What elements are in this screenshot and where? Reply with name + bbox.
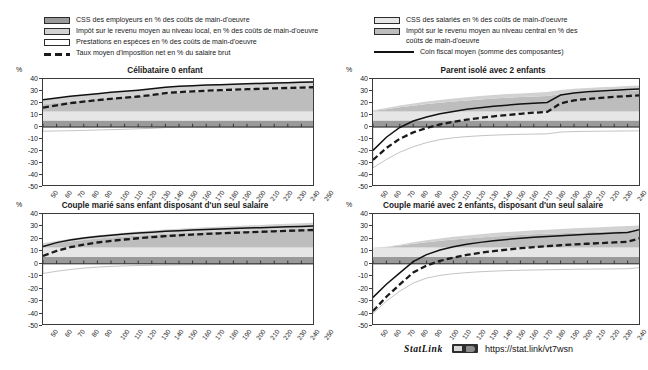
plot-area [372,78,640,186]
area-series [43,111,314,120]
y-tick-label: -30 [358,159,368,166]
area-series-negative [43,127,314,131]
series-layer [373,79,640,186]
x-tick-label: 90 [104,328,114,338]
y-axis-labels: 403020100-10-20-30-40-50 [18,78,38,186]
chart-panel-celibataire-0-enfant: Célibataire 0 enfant%403020100-10-20-30-… [0,66,314,216]
x-tick-label: 200 [582,328,594,341]
y-tick-label: 0 [34,259,38,266]
legend-swatch-icon [374,28,400,35]
y-tick-label: 40 [30,75,38,82]
y-tick-mark [39,275,42,276]
y-tick-mark [39,238,42,239]
x-tick-label: 50 [49,189,59,199]
x-tick-label: 220 [282,328,294,341]
y-tick-mark [39,174,42,175]
legend-item: Taux moyen d'imposition net en % du sala… [44,49,344,59]
statlink-url[interactable]: https://stat.link/vt7wsn [485,344,573,354]
x-tick-label: 50 [379,328,389,338]
y-tick-label: 10 [30,111,38,118]
legend-label: Impôt sur le revenu moyen au niveau cent… [406,27,592,46]
legend-item: Coin fiscal moyen (somme des composantes… [374,48,646,58]
x-tick-label: 110 [132,328,144,341]
y-tick-mark [39,213,42,214]
legend-item: CSS des salariés en % des coûts de main-… [374,16,646,26]
y-tick-mark [369,313,372,314]
x-tick-label: 180 [555,328,567,341]
y-tick-mark [369,90,372,91]
x-tick-label: 60 [63,189,73,199]
y-axis-labels: 403020100-10-20-30-40-50 [18,213,38,325]
x-tick-label: 180 [227,328,239,341]
y-tick-label: -40 [28,171,38,178]
y-tick-label: -20 [28,147,38,154]
x-tick-label: 120 [146,328,158,341]
y-axis-labels: 403020100-10-20-30-40-50 [348,213,368,325]
y-tick-label: -50 [358,183,368,190]
y-tick-label: -10 [358,272,368,279]
y-axis-unit: % [346,201,352,208]
y-tick-label: 30 [30,87,38,94]
y-tick-label: 20 [360,99,368,106]
y-tick-label: 0 [364,123,368,130]
y-tick-label: 0 [364,259,368,266]
legend-item: Impôt sur le revenu moyen au niveau loca… [44,27,344,37]
y-tick-mark [369,102,372,103]
legend-left: CSS des employeurs en % des coûts de mai… [44,16,344,60]
y-tick-mark [369,275,372,276]
y-tick-label: -50 [358,322,368,329]
y-tick-label: -10 [358,135,368,142]
legend-item: CSS des employeurs en % des coûts de mai… [44,16,344,26]
y-tick-mark [39,313,42,314]
y-tick-mark [369,213,372,214]
x-tick-label: 230 [295,328,307,341]
x-tick-label: 130 [488,328,500,341]
x-tick-label: 60 [393,328,403,338]
y-tick-label: -40 [358,309,368,316]
x-tick-label: 160 [528,328,540,341]
y-tick-mark [369,238,372,239]
x-tick-label: 80 [90,328,100,338]
y-tick-label: 20 [30,234,38,241]
x-tick-label: 200 [255,328,267,341]
y-tick-mark [369,300,372,301]
x-tick-label: 50 [379,189,389,199]
legend-label: Coin fiscal moyen (somme des composantes… [420,48,564,58]
y-tick-label: 10 [30,247,38,254]
x-tick-label: 150 [187,328,199,341]
x-tick-label: 80 [419,328,429,338]
x-tick-label: 110 [461,328,473,341]
y-tick-mark [369,288,372,289]
x-tick-label: 90 [104,189,114,199]
x-tick-label: 240 [635,328,647,341]
x-tick-label: 80 [419,189,429,199]
y-tick-mark [369,250,372,251]
legend-swatch-icon [44,17,70,24]
y-tick-mark [39,263,42,264]
x-tick-label: 230 [622,328,634,341]
y-tick-mark [39,78,42,79]
y-tick-label: 10 [360,111,368,118]
legend-right: CSS des salariés en % des coûts de main-… [374,16,646,59]
area-series-negative [373,264,640,314]
series-layer [43,79,314,186]
x-axis-labels: 5060708090100110120130140150160170180190… [42,328,314,354]
chart-panel-couple-marie-2-enfants: Couple marié avec 2 enfants, disposant d… [330,201,642,355]
statlink-label: StatLink [404,343,443,354]
y-tick-mark [39,138,42,139]
y-tick-mark [39,126,42,127]
y-tick-label: -30 [358,297,368,304]
legend-label: Taux moyen d'imposition net en % du sala… [76,49,230,59]
x-tick-label: 140 [501,328,513,341]
x-tick-label: 190 [241,328,253,341]
area-series-negative [43,264,314,274]
y-tick-mark [39,300,42,301]
x-tick-label: 90 [433,328,443,338]
chart-title: Couple marié sans enfant disposant d'un … [16,201,314,210]
y-tick-mark [369,162,372,163]
y-tick-mark [39,250,42,251]
y-tick-label: -30 [28,297,38,304]
y-tick-label: 30 [30,222,38,229]
x-tick-label: 90 [433,189,443,199]
chart-panel-parent-isole-2-enfants: Parent isolé avec 2 enfants%403020100-10… [330,66,642,216]
